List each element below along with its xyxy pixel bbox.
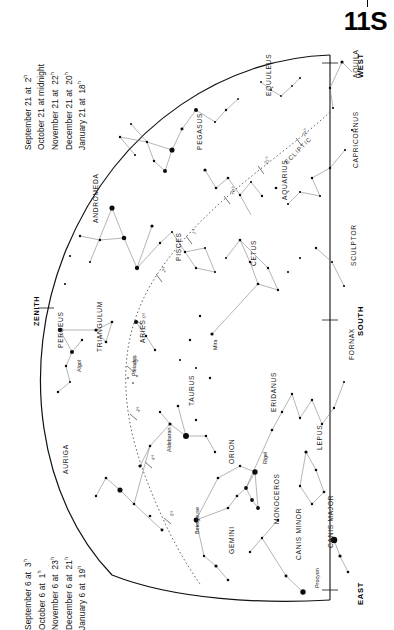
star-dot (195, 267, 197, 269)
star-dot (329, 87, 331, 89)
star-dot (323, 491, 326, 494)
star-dot (205, 435, 207, 437)
star-dot (271, 429, 274, 432)
star-dot (210, 332, 213, 335)
constellation-label: EQUULEUS (265, 54, 272, 96)
star-name-label: Procyon (314, 568, 320, 588)
star-dot (203, 168, 206, 171)
star-dot (209, 377, 211, 379)
star-name-label: Rigel (262, 452, 268, 464)
star-dot (65, 365, 67, 367)
star-dot (299, 485, 301, 487)
star-dot (299, 191, 301, 193)
star-dot (57, 391, 59, 393)
star-dot (69, 255, 71, 257)
star-dot (250, 498, 254, 502)
star-dot (267, 267, 269, 269)
date-label: October 6 at (36, 583, 46, 630)
star-dot (204, 247, 206, 249)
star-dot (332, 107, 334, 109)
star-dot (275, 187, 278, 190)
constellation-label: ORION (228, 439, 235, 464)
star-dot (153, 160, 155, 162)
star-dot (287, 271, 289, 273)
star-dot (194, 108, 198, 112)
star-dot (239, 194, 241, 196)
star-dot (261, 537, 263, 539)
star-dot (311, 399, 313, 401)
star-dot (149, 445, 152, 448)
constellation-label: AQUARIUS (281, 160, 288, 200)
constellation-label: TRIANGULUM (96, 301, 103, 352)
star-dot (217, 477, 220, 480)
star-dot (179, 359, 181, 361)
star-dot (105, 341, 108, 344)
date-label: November 6 at (50, 574, 60, 630)
star-dot (177, 405, 180, 408)
date-time: 20h (63, 72, 73, 89)
constellation-label: PERSEUS (57, 311, 64, 348)
star-dot (122, 236, 127, 241)
star-dot (214, 451, 216, 453)
star-dot (347, 571, 350, 574)
constellation-label: CANIS MINOR (295, 508, 302, 560)
date-time: 21h (63, 557, 73, 574)
star-dot (225, 109, 227, 111)
star-dot (315, 469, 318, 472)
star-dot (199, 315, 201, 317)
star-dot (299, 257, 301, 259)
date-time: 23h (50, 557, 60, 574)
star-dot (195, 419, 197, 421)
compass-label-east: EAST (356, 582, 365, 605)
date-time: 3h (23, 559, 33, 572)
star-dot (249, 551, 251, 553)
star-dot (184, 251, 186, 253)
star-dot (299, 77, 301, 79)
date-time: 18h (77, 81, 87, 98)
star-dot (135, 266, 139, 270)
date-time: 22h (50, 72, 60, 89)
constellation-label: FORNAX (348, 328, 355, 360)
star-dot (277, 289, 279, 291)
star-dot (138, 464, 141, 467)
footer-date-line: October 6 at 1h (36, 570, 47, 630)
star-dot (285, 575, 288, 578)
constellation-label: ANDROMEDA (92, 173, 99, 223)
star-dot (261, 195, 263, 197)
star-dot (291, 85, 293, 87)
footer-date-line: January 6 at 19h (76, 566, 87, 630)
star-dot (159, 411, 161, 413)
star-dot (319, 195, 321, 197)
star-dot (168, 422, 171, 425)
constellation-label: GEMINI (228, 526, 235, 554)
star-dot (79, 235, 81, 237)
star-dot (333, 407, 335, 409)
star-dot (149, 515, 152, 518)
constellation-label: MONOCEROS (273, 473, 280, 524)
star-dot (64, 283, 66, 285)
header-date-line: November 21 at 22h (49, 72, 60, 150)
header-date-line: September 21 at 2h (22, 74, 33, 150)
star-dot (81, 339, 83, 341)
star-dot (343, 285, 345, 287)
star-dot (281, 411, 283, 413)
zenith-label: ZENITH (32, 296, 41, 326)
star-dot (214, 564, 217, 567)
constellation-label: ARIES (139, 319, 146, 343)
star-dot (338, 554, 341, 557)
footer-date-line: November 6 at 23h (49, 557, 60, 630)
star-dot (183, 433, 189, 439)
constellation-label: CETUS (250, 240, 257, 266)
constellation-label: CANIS MAJOR (327, 495, 334, 548)
star-dot (300, 589, 305, 594)
star-dot (236, 495, 239, 498)
star-name-label: Mira (212, 340, 218, 350)
star-dot (280, 95, 282, 97)
star-name-label: Algol (76, 360, 82, 372)
star-dot (111, 321, 114, 324)
date-label: October 21 at midnight (36, 64, 46, 150)
star-dot (130, 123, 132, 125)
star-dot (340, 60, 343, 63)
star-dot (215, 187, 218, 190)
